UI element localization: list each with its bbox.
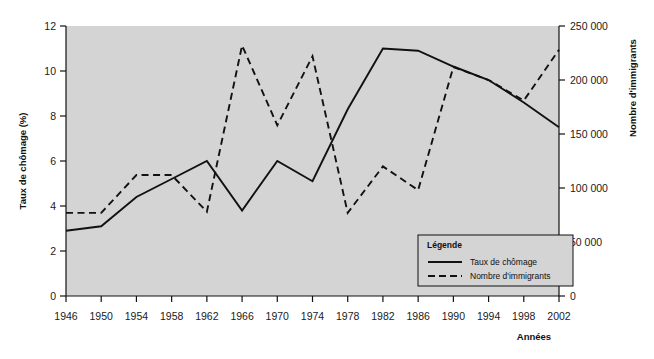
x-axis-tick-label: 1950 [90,310,114,322]
x-axis-tick-label: 2002 [547,310,571,322]
legend: Légende Taux de chômage Nombre d'immigra… [418,235,573,286]
y-axis-left-tick-label: 0 [50,290,56,302]
x-axis-tick-label: 1990 [442,310,466,322]
y-axis-right-tick-label: 200 000 [570,74,608,86]
y-axis-right-tick-label: 100 000 [570,182,608,194]
legend-label-taux-de-chomage: Taux de chômage [470,257,537,267]
y-axis-left-tick-label: 12 [44,20,56,32]
y-axis-left-tick-label: 6 [50,155,56,167]
y-axis-left-tick-label: 2 [50,245,56,257]
y-axis-left-tick-label: 10 [44,65,56,77]
y-axis-left-tick-label: 4 [50,200,56,212]
y-axis-right-title: Nombre d'immigrants [627,39,638,137]
x-axis-tick-label: 1978 [336,310,360,322]
legend-title: Légende [427,240,462,250]
y-axis-right-tick-label: 50 000 [570,236,602,248]
y-axis-right-tick-label: 0 [570,290,576,302]
x-axis-tick-label: 1974 [301,310,325,322]
y-axis-right-tick-label: 150 000 [570,128,608,140]
chart-container: 024681012 050 000100 000150 000200 00025… [0,0,654,359]
x-axis-tick-label: 1986 [406,310,430,322]
x-axis-tick-label: 1962 [195,310,219,322]
x-axis-tick-label: 1998 [512,310,536,322]
x-axis-tick-label: 1946 [54,310,78,322]
x-axis-title: Années [517,331,551,342]
y-axis-left-title: Taux de chômage (%) [17,113,28,210]
x-axis-tick-label: 1954 [125,310,149,322]
legend-label-nombre-immigrants: Nombre d'immigrants [470,271,551,281]
y-axis-right-tick-label: 250 000 [570,20,608,32]
x-axis-tick-label: 1994 [477,310,501,322]
x-axis-tick-label: 1982 [371,310,395,322]
y-axis-left-tick-label: 8 [50,110,56,122]
dual-axis-line-chart: 024681012 050 000100 000150 000200 00025… [0,0,654,359]
x-axis-tick-label: 1958 [160,310,184,322]
x-axis-tick-label: 1966 [230,310,254,322]
x-axis-tick-label: 1970 [266,310,290,322]
